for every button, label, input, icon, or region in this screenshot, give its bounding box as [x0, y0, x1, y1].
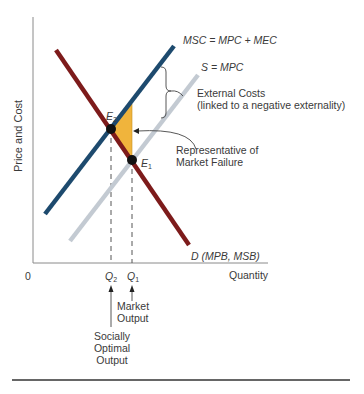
e1-label: E1: [141, 157, 152, 173]
market-failure-arrowhead: [133, 128, 139, 134]
e1-point: [127, 155, 137, 165]
msc-label: MSC = MPC + MEC: [183, 34, 277, 46]
socially-optimal-arrowhead: [109, 285, 114, 292]
e2-label: E2: [106, 110, 117, 126]
external-costs-label-1: External Costs: [197, 87, 265, 99]
supply-label: S = MPC: [201, 61, 243, 73]
external-costs-label-2: (linked to a negative externality): [197, 99, 345, 111]
demand-curve: [56, 50, 189, 245]
socially-optimal-label-1: Socially: [92, 330, 132, 342]
origin-label: 0: [25, 270, 31, 282]
x-axis-label: Quantity: [229, 269, 268, 281]
socially-optimal-label-3: Output: [92, 354, 132, 366]
y-axis-label: Price and Cost: [12, 96, 24, 176]
market-failure-label-2: Market Failure: [176, 156, 243, 168]
market-output-label-1: Market: [117, 300, 149, 312]
market-failure-label-1: Representative of: [176, 144, 258, 156]
market-output-label-2: Output: [117, 312, 149, 324]
socially-optimal-label-2: Optimal: [92, 342, 132, 354]
externality-diagram: [0, 0, 364, 394]
q1-label: Q1: [127, 270, 139, 286]
demand-label: D (MPB, MSB): [191, 250, 260, 262]
q2-label: Q2: [105, 270, 117, 286]
market-output-arrowhead: [130, 285, 135, 292]
